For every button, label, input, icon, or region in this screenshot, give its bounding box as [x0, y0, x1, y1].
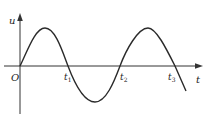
- t3-label: t3: [168, 72, 176, 83]
- u-axis-label: u: [9, 15, 15, 26]
- t-axis-label: t: [196, 74, 201, 85]
- u-axis-arrow-icon: [17, 13, 23, 21]
- sine-curve: [20, 28, 186, 102]
- sine-graph: u t O t1 t2 t3: [0, 0, 207, 119]
- origin-label: O: [11, 72, 19, 83]
- t-axis-arrow-icon: [195, 63, 203, 69]
- t2-label: t2: [120, 72, 128, 83]
